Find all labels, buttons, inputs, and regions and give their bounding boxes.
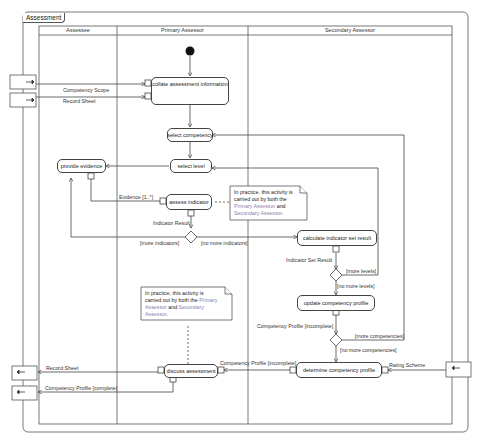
flow-label-record-sheet-out: Record Sheet (46, 365, 78, 371)
guard-more-indicators: [more indicators] (140, 240, 179, 246)
flow-label-rating-scheme: Rating Scheme (389, 362, 425, 368)
frame-title: Assessment (23, 13, 65, 23)
action-determine-competency-profile[interactable]: determine competency profile (296, 362, 382, 378)
flow-label-record-sheet-in: Record Sheet (63, 98, 95, 104)
param-record-sheet-out (12, 366, 37, 380)
action-collate-assessment-information[interactable]: collate assessment information (151, 77, 229, 105)
guard-no-more-indicators: [no more indicators] (201, 240, 248, 246)
initial-node (186, 47, 195, 56)
guard-no-more-levels: [no more levels] (337, 283, 374, 289)
param-profile-complete (12, 386, 37, 400)
flow-label-profile-complete: Competency Profile [complete] (45, 385, 117, 391)
activity-frame (23, 12, 468, 432)
decision-competencies (330, 334, 342, 346)
diagram-canvas (0, 0, 477, 441)
guard-more-competencies: [more competencies] (355, 333, 404, 339)
lane-header-assessee: Assessee (39, 26, 117, 35)
flow-label-competency-scope: Competency Scope (63, 87, 109, 93)
decision-levels (330, 269, 342, 281)
action-select-competency[interactable]: select competency (167, 128, 213, 142)
lane-header-primary-assessor: Primary Assessor (117, 26, 248, 35)
flow-label-indicator-result: Indicator Result (153, 220, 190, 226)
role-secondary-assessor: Secondary Assessor (234, 210, 282, 216)
flow-label-profile-incomplete-2: Competency Profile [incomplete] (220, 360, 296, 366)
action-select-level[interactable]: select level (170, 159, 212, 173)
lane-header-secondary-assessor: Secondary Assessor (248, 26, 452, 35)
role-primary-assessor: Primary Assessor (234, 203, 275, 209)
guard-no-more-competencies: [no more competencies] (340, 347, 397, 353)
action-update-competency-profile[interactable]: update competency profile (297, 295, 375, 311)
comment-note-discuss-assessment: In practice, this activity is carried ou… (142, 288, 224, 319)
action-calculate-indicator-set-result[interactable]: calculate indicator set result (297, 230, 377, 246)
flow-label-evidence: Evidence [1..*] (119, 194, 153, 200)
param-rating-scheme (446, 362, 471, 377)
decision-indicators (185, 231, 197, 243)
guard-more-levels: [more levels] (346, 268, 376, 274)
comment-note-assess-indicator: In practice, this activity is carried ou… (231, 187, 305, 219)
action-provide-evidence[interactable]: provide evidence (57, 159, 106, 173)
flow-label-indicator-set-result: Indicator Set Result (286, 257, 332, 263)
action-discuss-assessment[interactable]: discuss assessment (164, 364, 218, 378)
action-assess-indicator[interactable]: assess indicator (166, 194, 212, 210)
flow-label-profile-incomplete: Competency Profile [incomplete] (257, 323, 333, 329)
